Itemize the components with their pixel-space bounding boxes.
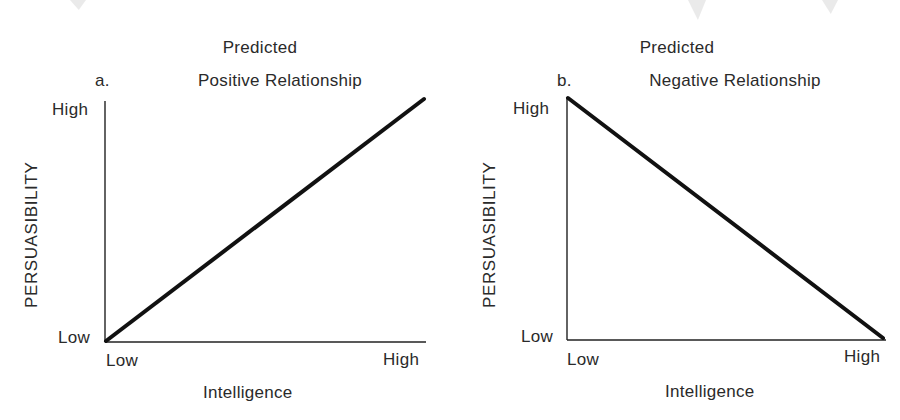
chart-panel-b: Predicted b. Negative Relationship PERSU… <box>450 0 900 420</box>
data-line-positive <box>106 99 424 341</box>
data-line-negative <box>568 98 883 338</box>
plot-area <box>450 0 900 420</box>
plot-area <box>0 0 450 420</box>
chart-panel-a: Predicted a. Positive Relationship PERSU… <box>0 0 450 420</box>
